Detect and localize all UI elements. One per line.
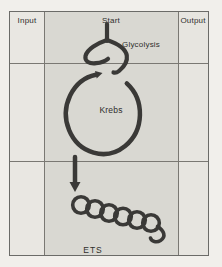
column-divider-line	[178, 12, 179, 255]
process-table: Input Start Output Glycolysis Krebs ETS	[9, 11, 209, 256]
row-divider-line	[10, 63, 208, 64]
glycolysis-stage-label: Glycolysis	[122, 40, 160, 49]
output-column-background	[178, 12, 208, 255]
input-column-header: Input	[10, 16, 44, 25]
start-column-header: Start	[44, 16, 178, 25]
column-divider-line	[44, 12, 45, 255]
ets-stage-label: ETS	[68, 245, 118, 255]
row-divider-line	[10, 161, 208, 162]
figure-canvas: Input Start Output Glycolysis Krebs ETS	[0, 0, 222, 267]
input-column-background	[10, 12, 44, 255]
output-column-header: Output	[178, 16, 208, 25]
krebs-stage-label: Krebs	[44, 105, 178, 115]
